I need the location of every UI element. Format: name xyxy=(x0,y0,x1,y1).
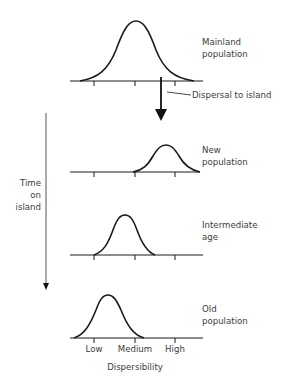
dispersal-leader-line xyxy=(167,92,191,95)
mainland-label-line1: Mainland xyxy=(202,36,248,48)
time-label-line3: island xyxy=(16,201,41,213)
mainland-label: Mainland population xyxy=(202,36,248,60)
intermediate-distribution-curve xyxy=(94,215,155,255)
old-label: Old population xyxy=(202,303,248,327)
mainland-label-line2: population xyxy=(202,48,248,60)
dispersal-label: Dispersal to island xyxy=(192,89,271,101)
new-panel xyxy=(70,145,200,177)
tick-label-low: Low xyxy=(79,343,109,355)
dispersal-arrowhead-icon xyxy=(155,109,167,121)
new-label-line1: New xyxy=(202,144,248,156)
time-arrow xyxy=(43,113,49,290)
dispersal-arrow xyxy=(155,77,191,121)
intermediate-label: Intermediate age xyxy=(202,219,257,243)
time-label-line1: Time xyxy=(16,177,41,189)
time-arrowhead-icon xyxy=(43,283,49,290)
old-label-line2: population xyxy=(202,315,248,327)
intermediate-label-line2: age xyxy=(202,231,257,243)
x-axis-title: Dispersibility xyxy=(100,361,170,373)
tick-label-medium: Medium xyxy=(115,343,155,355)
intermediate-panel xyxy=(70,215,203,260)
mainland-distribution-curve xyxy=(80,21,194,81)
new-distribution-curve xyxy=(133,145,200,172)
new-label: New population xyxy=(202,144,248,168)
time-label-line2: on xyxy=(16,189,41,201)
old-distribution-curve xyxy=(74,295,144,338)
new-label-line2: population xyxy=(202,156,248,168)
old-label-line1: Old xyxy=(202,303,248,315)
old-panel xyxy=(70,295,203,343)
time-axis-label: Time on island xyxy=(16,177,41,213)
tick-label-high: High xyxy=(160,343,190,355)
intermediate-label-line1: Intermediate xyxy=(202,219,257,231)
mainland-panel xyxy=(70,21,203,86)
